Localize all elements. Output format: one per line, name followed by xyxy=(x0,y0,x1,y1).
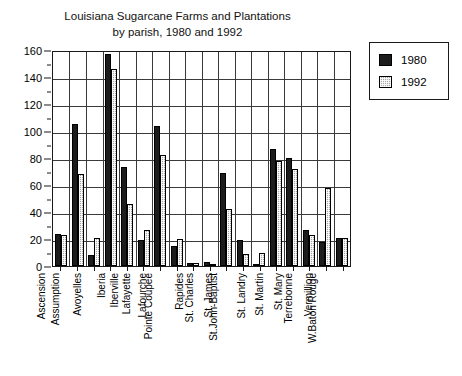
y-tick-label: 60 xyxy=(30,180,42,192)
x-tick-label: St. Martin xyxy=(255,273,265,316)
x-tick-label: Terrebonne xyxy=(284,273,294,324)
y-tick-minor xyxy=(47,172,51,173)
bar-group xyxy=(202,52,219,266)
y-tick-label: 80 xyxy=(30,153,42,165)
y-tick-minor xyxy=(47,64,51,65)
bar-group xyxy=(317,52,334,266)
x-tick-cell: W.Baton Rouge xyxy=(334,267,351,372)
plot-area xyxy=(52,51,351,267)
x-tick-mark xyxy=(127,267,128,271)
x-tick-label: St. Charles xyxy=(185,273,195,322)
bar-1992 xyxy=(226,209,232,266)
bar-group xyxy=(284,52,301,266)
bar-1992 xyxy=(78,174,84,266)
chart-title-block: Louisiana Sugarcane Farms and Plantation… xyxy=(0,8,355,40)
bar-1992 xyxy=(61,235,67,266)
legend-item-1992: 1992 xyxy=(379,71,448,93)
x-tick-mark xyxy=(226,267,227,271)
bar-1992 xyxy=(259,253,265,267)
y-tick-mark xyxy=(44,240,51,241)
x-tick-label: Pointe Coupee xyxy=(143,273,153,339)
bar-1992 xyxy=(210,264,216,266)
y-tick-minor xyxy=(47,118,51,119)
y-tick-label: 20 xyxy=(30,234,42,246)
bar-1992 xyxy=(342,238,348,266)
chart-page: Louisiana Sugarcane Farms and Plantation… xyxy=(0,0,462,376)
y-tick-label: 140 xyxy=(24,72,42,84)
chart-legend: 1980 1992 xyxy=(369,42,449,100)
chart-subtitle: by parish, 1980 and 1992 xyxy=(0,24,355,40)
bar-group xyxy=(334,52,351,266)
x-tick-mark xyxy=(326,267,327,271)
x-tick-label: St. Landry xyxy=(237,273,247,319)
bar-group xyxy=(103,52,120,266)
bar-group xyxy=(119,52,136,266)
y-tick-label: 40 xyxy=(30,207,42,219)
bar-group xyxy=(70,52,87,266)
y-tick-label: 100 xyxy=(24,126,42,138)
bar-group xyxy=(169,52,186,266)
bar-1992 xyxy=(177,239,183,266)
x-tick-mark xyxy=(293,267,294,271)
x-tick-mark xyxy=(60,267,61,271)
bar-1992 xyxy=(144,230,150,266)
bar-1992 xyxy=(243,254,249,266)
x-tick-mark xyxy=(177,267,178,271)
bar-group xyxy=(53,52,70,266)
bar-group xyxy=(152,52,169,266)
bar-group xyxy=(218,52,235,266)
y-axis: 020406080100120140160 xyxy=(0,0,52,376)
bar-1992 xyxy=(160,155,166,266)
y-tick-mark xyxy=(44,51,51,52)
bar-group xyxy=(86,52,103,266)
y-tick-minor xyxy=(47,91,51,92)
bar-group xyxy=(301,52,318,266)
x-tick-mark xyxy=(77,267,78,271)
y-tick-mark xyxy=(44,213,51,214)
x-tick-cell: Vermillion xyxy=(318,267,335,372)
x-tick-mark xyxy=(193,267,194,271)
bar-1992 xyxy=(309,235,315,266)
bar-1992 xyxy=(292,169,298,266)
legend-swatch-1980 xyxy=(379,54,392,66)
x-tick-mark xyxy=(160,267,161,271)
bar-group xyxy=(136,52,153,266)
y-tick-minor xyxy=(47,199,51,200)
x-tick-mark xyxy=(110,267,111,271)
x-tick-cell: Lafourche xyxy=(152,267,169,372)
bar-group xyxy=(235,52,252,266)
x-tick-label: Iberia xyxy=(98,273,108,298)
legend-label-1992: 1992 xyxy=(401,76,427,88)
y-tick-minor xyxy=(47,226,51,227)
x-tick-mark xyxy=(243,267,244,271)
y-tick-mark xyxy=(44,78,51,79)
legend-swatch-1992 xyxy=(379,76,392,88)
legend-label-1980: 1980 xyxy=(401,54,427,66)
bar-group xyxy=(268,52,285,266)
y-tick-minor xyxy=(47,145,51,146)
y-tick-mark xyxy=(44,159,51,160)
y-tick-label: 0 xyxy=(36,261,42,273)
bar-groups xyxy=(53,52,350,266)
bar-group xyxy=(251,52,268,266)
bar-1992 xyxy=(193,263,199,266)
x-tick-label: W.Baton Rouge xyxy=(308,273,318,343)
y-tick-label: 160 xyxy=(24,45,42,57)
x-tick-label: St.John-Baptist xyxy=(209,273,219,341)
y-tick-minor xyxy=(47,253,51,254)
page-title: Louisiana Sugarcane Farms and Plantation… xyxy=(0,8,355,24)
bar-1992 xyxy=(94,238,100,266)
x-tick-cell: St. James xyxy=(218,267,235,372)
y-tick-mark xyxy=(44,132,51,133)
bar-1992 xyxy=(111,69,117,266)
y-tick-mark xyxy=(44,186,51,187)
bar-1992 xyxy=(325,188,331,266)
y-tick-mark xyxy=(44,267,51,268)
x-tick-mark xyxy=(276,267,277,271)
x-tick-mark xyxy=(94,267,95,271)
x-tick-label: Assumption xyxy=(51,273,61,325)
x-tick-mark xyxy=(143,267,144,271)
x-tick-mark xyxy=(309,267,310,271)
x-tick-label: Ascension xyxy=(37,273,47,319)
bar-1992 xyxy=(276,161,282,266)
